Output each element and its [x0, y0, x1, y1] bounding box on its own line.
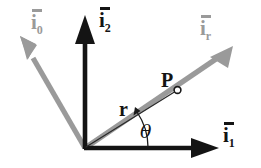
- label-ir: ir: [200, 18, 211, 39]
- vector-i2: [75, 15, 95, 149]
- vector-ir: [85, 46, 233, 148]
- label-i0: i0: [31, 12, 43, 33]
- label-i2-subscript: 2: [105, 21, 111, 35]
- label-ir-subscript: r: [206, 29, 211, 43]
- vector-i1: [84, 138, 219, 158]
- label-ir-base: i: [200, 18, 206, 39]
- vector-r: [86, 91, 176, 147]
- label-ir-overbar: [201, 15, 211, 18]
- vector-i0: [20, 36, 85, 148]
- label-i1-base: i: [223, 125, 229, 146]
- label-i1-subscript: 1: [229, 136, 235, 150]
- vector-r-shaft: [86, 91, 176, 147]
- label-i2-overbar: [100, 7, 111, 10]
- label-i0-subscript: 0: [37, 23, 43, 37]
- label-i0-base: i: [31, 12, 37, 33]
- label-i2: i2: [99, 10, 111, 31]
- label-i0-overbar: [32, 9, 43, 12]
- vector-i0-shaft: [33, 58, 85, 148]
- label-i1: i1: [223, 125, 235, 146]
- point-p-marker: [174, 87, 181, 94]
- vector-ir-arrowhead: [210, 46, 233, 68]
- label-i2-base: i: [99, 10, 105, 31]
- label-radius-r: r: [119, 99, 128, 119]
- label-angle-theta: θ: [140, 122, 151, 141]
- vector-i2-arrowhead: [75, 15, 95, 44]
- label-point-p: P: [161, 70, 173, 90]
- label-i1-overbar: [224, 122, 235, 125]
- vector-i1-arrowhead: [191, 138, 219, 158]
- vector-diagram: i0 i2 ir i1 P r θ: [0, 0, 261, 168]
- vector-i0-arrowhead-flare: [20, 36, 37, 60]
